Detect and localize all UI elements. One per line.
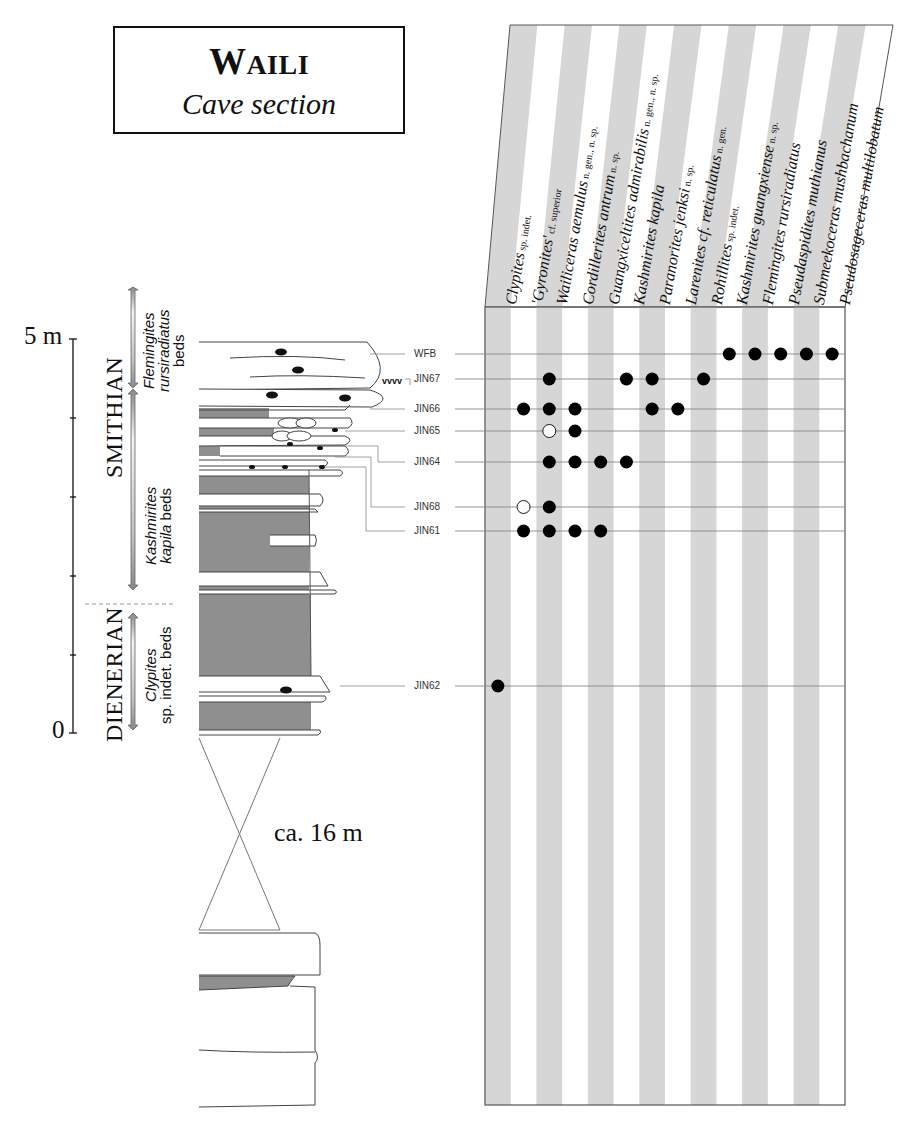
occurrence-dot (671, 403, 684, 416)
occurrence-dot (646, 403, 659, 416)
column-stripe (691, 307, 717, 1105)
occurrence-dot (569, 403, 582, 416)
occurrence-dot (543, 373, 556, 386)
occurrence-dot (620, 456, 633, 469)
sample-label: JIN65 (414, 425, 440, 436)
occurrence-dot (620, 373, 633, 386)
kashmirites-zone-arrow (128, 389, 138, 590)
occurrence-dot (646, 373, 659, 386)
occurrence-dot (491, 680, 504, 693)
occurrence-dot (826, 348, 839, 361)
sample-label: JIN62 (414, 680, 440, 691)
occurrence-dot (543, 501, 556, 514)
occurrence-dot (543, 456, 556, 469)
occurrence-dot (517, 403, 530, 416)
sample-label: JIN66 (414, 403, 440, 414)
occurrence-dot (569, 456, 582, 469)
uncertain-occurrence-dot (517, 501, 530, 514)
uncertain-occurrence-dot (543, 425, 556, 438)
sample-label: JIN61 (414, 525, 440, 536)
occurrence-dot (723, 348, 736, 361)
unconformity-symbol: vvvv (382, 376, 402, 386)
sample-label: JIN64 (414, 456, 440, 467)
stage-smithian: SMITHIAN (101, 357, 128, 478)
occurrence-dot (749, 348, 762, 361)
sample-label: WFB (414, 348, 436, 359)
occurrence-matrix (455, 307, 845, 1105)
occurrence-dot (594, 525, 607, 538)
occurrence-dot (543, 403, 556, 416)
zone-clypites: Clypitessp. indet. beds (143, 626, 173, 724)
sample-label: JIN67 (414, 373, 440, 384)
gap-label: ca. 16 m (274, 818, 363, 848)
scale-bottom-label: 0 (52, 716, 65, 744)
flemingites-zone-arrow (128, 287, 138, 388)
occurrence-dot (517, 525, 530, 538)
occurrence-dot (594, 456, 607, 469)
clypites-zone-arrow (128, 613, 138, 730)
occurrence-dot (697, 373, 710, 386)
column-stripe (485, 307, 511, 1105)
occurrence-dot (800, 348, 813, 361)
zone-kashmirites: Kashmiriteskapila beds (143, 487, 173, 565)
column-stripe (794, 307, 820, 1105)
occurrence-dot (569, 425, 582, 438)
zone-arrows (128, 287, 138, 730)
column-stripe (742, 307, 768, 1105)
scale-top-label: 5 m (24, 322, 62, 350)
column-stripe (588, 307, 614, 1105)
column-stripe (639, 307, 665, 1105)
scale-bar (69, 339, 77, 733)
sample-label: JIN68 (414, 501, 440, 512)
zone-flemingites: Flemingitesrursiradiatusbeds (141, 309, 186, 392)
stage-dienerian: DIENERIAN (101, 607, 128, 742)
occurrence-dot (774, 348, 787, 361)
occurrence-dot (543, 525, 556, 538)
occurrence-dot (569, 525, 582, 538)
